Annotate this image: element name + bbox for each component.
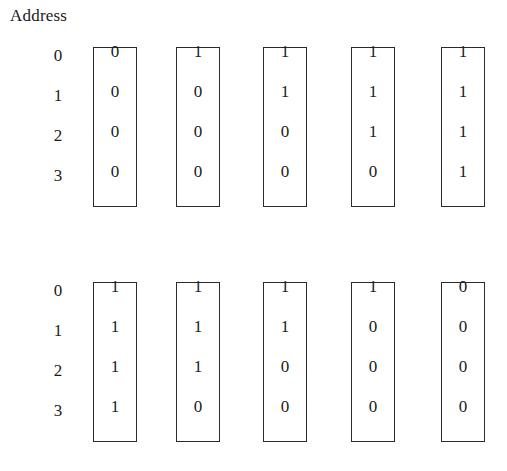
bit-cell: 1: [352, 83, 394, 101]
bit-cell: 0: [264, 123, 306, 141]
bit-cell: 0: [352, 318, 394, 336]
bit-cell: 0: [94, 43, 136, 61]
address-label-2: 2: [38, 127, 78, 145]
bit-cell: 1: [264, 278, 306, 296]
bit-cell: 1: [352, 43, 394, 61]
bit-cell: 0: [264, 163, 306, 181]
bit-cell: 1: [264, 318, 306, 336]
address-label-1: 1: [38, 322, 78, 340]
bit-cell: 1: [177, 43, 219, 61]
bottom-bank: 0 1 2 3 1 1 1 1 1 1 1 0 1 1 0 0 1 0 0 0: [0, 277, 507, 447]
address-label-3: 3: [38, 167, 78, 185]
bit-cell: 0: [264, 358, 306, 376]
bit-cell: 1: [94, 318, 136, 336]
bit-cell: 0: [442, 358, 484, 376]
bit-cell: 1: [264, 43, 306, 61]
bottom-bank-address-gutter: 0 1 2 3: [38, 282, 78, 442]
bit-cell: 1: [94, 398, 136, 416]
bit-cell: 0: [94, 123, 136, 141]
top-bank-column-2: 1 0 0 0: [176, 47, 220, 207]
bit-cell: 0: [442, 318, 484, 336]
bit-cell: 0: [442, 398, 484, 416]
bit-cell: 0: [177, 398, 219, 416]
bit-cell: 0: [352, 163, 394, 181]
bit-cell: 1: [177, 318, 219, 336]
memory-address-diagram: Address 0 1 2 3 0 0 0 0 1 0 0 0 1 1 0 0 …: [0, 0, 507, 471]
bottom-bank-column-3: 1 1 0 0: [263, 282, 307, 442]
address-caption: Address: [10, 6, 67, 26]
address-label-0: 0: [38, 47, 78, 65]
bit-cell: 0: [264, 398, 306, 416]
top-bank-column-4: 1 1 1 0: [351, 47, 395, 207]
address-label-1: 1: [38, 87, 78, 105]
bit-cell: 1: [352, 123, 394, 141]
top-bank-address-gutter: 0 1 2 3: [38, 47, 78, 207]
bottom-bank-column-2: 1 1 1 0: [176, 282, 220, 442]
address-label-3: 3: [38, 402, 78, 420]
bit-cell: 1: [442, 43, 484, 61]
bit-cell: 0: [94, 83, 136, 101]
bit-cell: 0: [352, 358, 394, 376]
top-bank-column-5: 1 1 1 1: [441, 47, 485, 207]
bottom-bank-column-5: 0 0 0 0: [441, 282, 485, 442]
top-bank: 0 1 2 3 0 0 0 0 1 0 0 0 1 1 0 0 1 1 1 0: [0, 42, 507, 212]
bit-cell: 1: [442, 123, 484, 141]
bottom-bank-column-1: 1 1 1 1: [93, 282, 137, 442]
bit-cell: 1: [94, 358, 136, 376]
bit-cell: 0: [177, 83, 219, 101]
bit-cell: 0: [177, 163, 219, 181]
address-label-2: 2: [38, 362, 78, 380]
bit-cell: 1: [352, 278, 394, 296]
bit-cell: 1: [177, 358, 219, 376]
bit-cell: 1: [94, 278, 136, 296]
bit-cell: 1: [442, 163, 484, 181]
bit-cell: 0: [352, 398, 394, 416]
top-bank-column-3: 1 1 0 0: [263, 47, 307, 207]
bit-cell: 1: [442, 83, 484, 101]
bit-cell: 0: [94, 163, 136, 181]
bit-cell: 1: [177, 278, 219, 296]
bit-cell: 1: [264, 83, 306, 101]
bit-cell: 0: [177, 123, 219, 141]
top-bank-column-1: 0 0 0 0: [93, 47, 137, 207]
address-label-0: 0: [38, 282, 78, 300]
bit-cell: 0: [442, 278, 484, 296]
bottom-bank-column-4: 1 0 0 0: [351, 282, 395, 442]
